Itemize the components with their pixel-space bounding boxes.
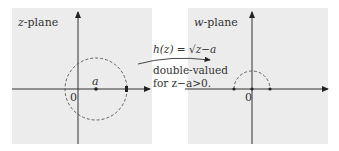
z-point-a-label: a — [92, 75, 99, 88]
z-plane-title: z-plane — [18, 16, 58, 29]
w-point-right — [268, 87, 271, 90]
w-origin-label: 0 — [245, 91, 252, 104]
mapping-formula: h(z) = √z−a — [153, 43, 216, 55]
mapping-line1: double-valued — [153, 64, 228, 76]
z-origin-label: 0 — [70, 91, 77, 104]
w-point-left — [232, 87, 235, 90]
mapping-line2: for z−a>0. — [153, 77, 211, 89]
w-plane-title: w-plane — [194, 16, 238, 29]
z-point-branch — [125, 86, 128, 92]
figure: z-plane 0 a w-plane 0 h(z) = √z−a double… — [0, 0, 339, 151]
